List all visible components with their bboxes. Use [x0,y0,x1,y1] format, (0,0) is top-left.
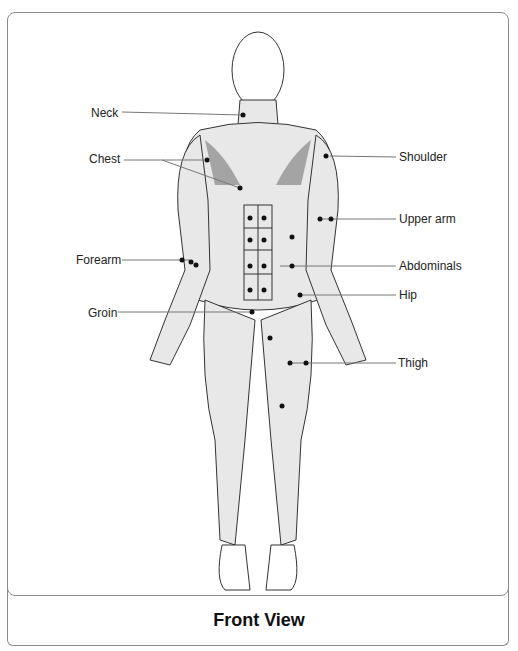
label-chest: Chest [89,152,120,166]
figure-caption: Front View [0,610,518,631]
body-front-diagram [0,0,518,651]
label-abdominals: Abdominals [399,259,462,273]
label-forearm: Forearm [76,253,121,267]
label-shoulder: Shoulder [399,150,447,164]
head [232,32,284,108]
label-hip: Hip [399,288,417,302]
label-upper-arm: Upper arm [399,212,456,226]
label-thigh: Thigh [398,356,428,370]
label-groin: Groin [88,306,117,320]
label-neck: Neck [91,106,118,120]
